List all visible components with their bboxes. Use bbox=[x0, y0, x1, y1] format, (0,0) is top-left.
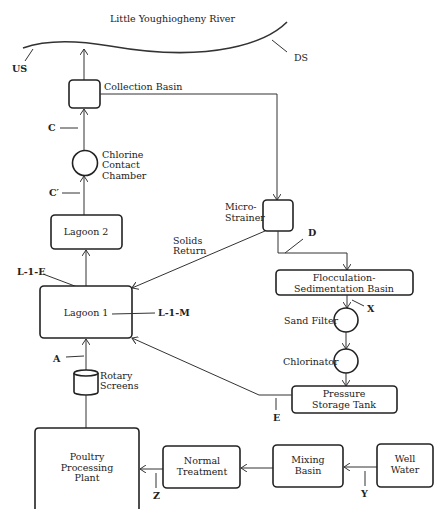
collection-basin-label: Collection Basin bbox=[104, 81, 182, 92]
pressure-tank-line1: Pressure bbox=[323, 388, 366, 399]
lagoon1-label: Lagoon 1 bbox=[64, 307, 109, 318]
us-leader bbox=[25, 49, 33, 61]
ds-label: DS bbox=[294, 52, 308, 63]
well-water-line2: Water bbox=[391, 464, 420, 475]
mixing-basin-line1: Mixing bbox=[291, 454, 324, 465]
a-leader bbox=[66, 356, 84, 357]
sand-filter-label: Sand Filter bbox=[284, 315, 338, 326]
rotary-screens-cylinder[interactable] bbox=[74, 370, 98, 395]
chlorine-chamber-circle[interactable] bbox=[73, 151, 98, 176]
normal-treatment-line2: Treatment bbox=[177, 466, 228, 477]
ds-leader bbox=[272, 40, 287, 52]
mixing-basin-line2: Basin bbox=[295, 465, 322, 476]
flocculation-line1: Flocculation- bbox=[313, 272, 376, 283]
flow-to-microstrainer bbox=[100, 94, 277, 200]
micro-strainer-line2: Strainer bbox=[225, 212, 265, 223]
collection-basin-box[interactable] bbox=[69, 80, 100, 108]
d-leader bbox=[285, 239, 303, 253]
poultry-line3: Plant bbox=[74, 472, 99, 483]
x-label: X bbox=[367, 303, 375, 314]
river-label: Little Youghiogheny River bbox=[110, 13, 235, 24]
flocculation-line2: Sedimentation Basin bbox=[294, 283, 394, 294]
x-leader bbox=[352, 300, 364, 306]
poultry-line1: Poultry bbox=[70, 451, 105, 462]
z-label: Z bbox=[153, 490, 160, 501]
cprime-label: C′ bbox=[49, 187, 60, 198]
chlorine-line3: Chamber bbox=[102, 170, 147, 181]
l1m-label: L-1-M bbox=[158, 307, 190, 318]
pressure-tank-line2: Storage Tank bbox=[312, 399, 376, 410]
micro-strainer-line1: Micro- bbox=[225, 201, 257, 212]
micro-strainer-box[interactable] bbox=[263, 200, 293, 231]
flow-tank-to-lagoon1 bbox=[132, 338, 292, 395]
chlorinator-label: Chlorinator bbox=[283, 356, 339, 367]
d-label: D bbox=[308, 227, 316, 238]
flow-diagram: Little Youghiogheny River US DS Collecti… bbox=[0, 0, 443, 509]
well-water-line1: Well bbox=[395, 453, 416, 464]
l1e-label: L-1-E bbox=[17, 266, 45, 277]
solids-return-line2: Return bbox=[173, 245, 206, 256]
e-label: E bbox=[273, 412, 280, 423]
a-label: A bbox=[52, 353, 61, 364]
rotary-screens-line2: Screens bbox=[100, 380, 139, 391]
chlorine-line2: Contact bbox=[102, 159, 140, 170]
c-label: C bbox=[48, 122, 56, 133]
lagoon2-label: Lagoon 2 bbox=[64, 226, 109, 237]
normal-treatment-line1: Normal bbox=[184, 455, 220, 466]
us-label: US bbox=[12, 63, 27, 74]
river-curve bbox=[23, 22, 287, 53]
y-label: Y bbox=[360, 488, 368, 499]
